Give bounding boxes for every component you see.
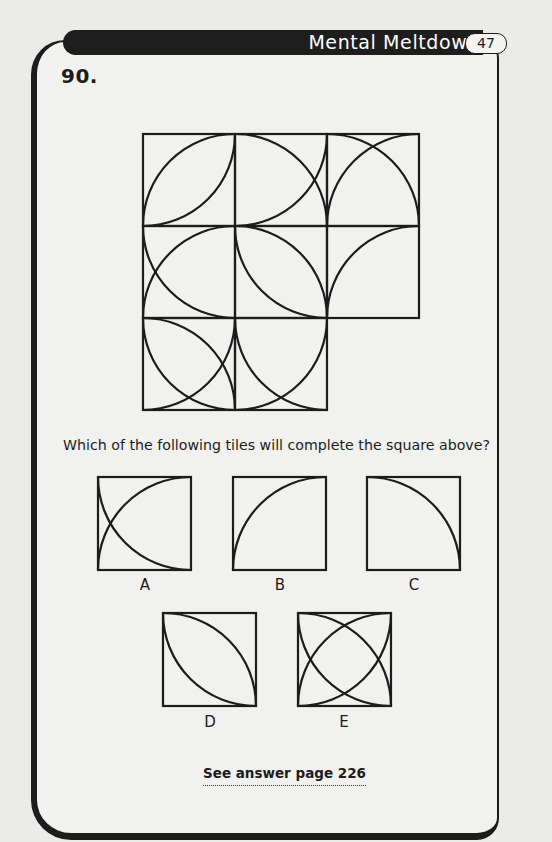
tile-border: [327, 226, 419, 318]
arc-center-BL: [367, 477, 460, 570]
arc-center-TR: [235, 318, 327, 410]
arc-center-TR: [143, 318, 235, 410]
arc-center-TR: [98, 477, 191, 570]
arc-center-BL: [327, 134, 419, 226]
option-tile-b: [233, 477, 326, 570]
arc-center-BR: [143, 226, 235, 318]
arc-center-BR: [298, 613, 391, 706]
arc-center-TL: [235, 134, 327, 226]
grid-tile-r1c2: [327, 226, 419, 318]
tile-border: [163, 613, 256, 706]
option-label-b: B: [265, 576, 295, 594]
arc-center-TR: [298, 613, 391, 706]
tile-border: [143, 318, 235, 410]
arc-center-BL: [298, 613, 391, 706]
arc-center-TR: [235, 226, 327, 318]
puzzle-figures: [0, 0, 552, 842]
arc-center-BL: [163, 613, 256, 706]
arc-center-BL: [143, 318, 235, 410]
grid-tile-r1c0: [143, 226, 235, 318]
arc-center-BL: [235, 226, 327, 318]
grid-tile-r2c1: [235, 318, 327, 410]
arc-center-BR: [143, 134, 235, 226]
tile-border: [367, 477, 460, 570]
option-label-d: D: [195, 713, 225, 731]
arc-center-BR: [98, 477, 191, 570]
grid-tile-r0c0: [143, 134, 235, 226]
arc-center-TL: [235, 318, 327, 410]
question-text: Which of the following tiles will comple…: [63, 437, 490, 453]
tile-border: [235, 318, 327, 410]
arc-center-BR: [327, 134, 419, 226]
arc-center-TR: [163, 613, 256, 706]
option-tile-a: [98, 477, 191, 570]
option-tile-d: [163, 613, 256, 706]
arc-center-TL: [143, 318, 235, 410]
tile-border: [235, 134, 327, 226]
tile-border: [98, 477, 191, 570]
arc-center-TL: [143, 134, 235, 226]
option-label-a: A: [130, 576, 160, 594]
tile-border: [143, 134, 235, 226]
tile-border: [235, 226, 327, 318]
grid-tile-r2c0: [143, 318, 235, 410]
tile-border: [233, 477, 326, 570]
option-label-e: E: [329, 713, 359, 731]
arc-center-TL: [298, 613, 391, 706]
grid-tile-r0c1: [235, 134, 327, 226]
arc-center-BL: [235, 134, 327, 226]
tile-border: [143, 226, 235, 318]
grid-tile-r0c2: [327, 134, 419, 226]
grid-tile-r1c1: [235, 226, 327, 318]
answer-reference: See answer page 226: [203, 765, 366, 786]
arc-center-TR: [143, 226, 235, 318]
option-tile-c: [367, 477, 460, 570]
arc-center-BR: [233, 477, 326, 570]
option-tile-e: [298, 613, 391, 706]
tile-border: [327, 134, 419, 226]
option-label-c: C: [399, 576, 429, 594]
tile-grid: [143, 134, 419, 410]
tile-border: [298, 613, 391, 706]
arc-center-BR: [327, 226, 419, 318]
